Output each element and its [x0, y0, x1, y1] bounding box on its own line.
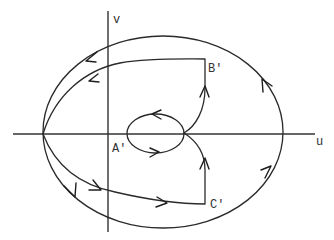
phase-plane-diagram: v u A' B' C' [0, 0, 334, 240]
point-c-label: C' [210, 198, 224, 212]
arrow-icon-upper-branch-left [89, 74, 99, 82]
arrow-icon-outer-lower-left [64, 183, 76, 197]
point-b-label: B' [208, 62, 222, 76]
arrow-icon-lower-branch-middle [156, 197, 167, 207]
v-axis-label: v [113, 13, 120, 27]
u-axis-label: u [316, 135, 323, 149]
outer-ellipse-trajectory [43, 36, 283, 228]
upper-branch-trajectory [43, 59, 205, 134]
point-a-label: A' [112, 142, 126, 156]
